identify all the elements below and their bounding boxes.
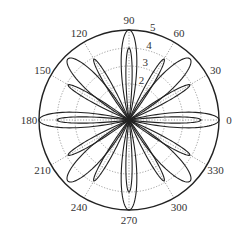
angle-label-90: 90	[124, 14, 136, 26]
petal-curve	[129, 58, 191, 120]
angle-label-60: 60	[174, 27, 186, 39]
angle-label-210: 210	[34, 164, 51, 176]
petal-curve	[67, 120, 129, 182]
radius-label-3: 3	[143, 56, 149, 68]
angle-label-30: 30	[210, 64, 222, 76]
petal-curve	[67, 58, 129, 120]
polar-curves	[39, 30, 219, 210]
polar-chart: 0 30 60 90 120 150 180 210 240 270 300 3…	[0, 0, 242, 235]
angle-label-330: 330	[207, 164, 224, 176]
angle-label-300: 300	[171, 201, 188, 213]
angle-label-270: 270	[121, 214, 138, 226]
angle-label-150: 150	[34, 64, 51, 76]
petal-curve	[129, 120, 191, 182]
angle-label-0: 0	[226, 114, 232, 126]
angle-label-120: 120	[71, 27, 88, 39]
radius-label-4: 4	[146, 39, 152, 51]
angle-label-240: 240	[71, 201, 88, 213]
angle-label-180: 180	[21, 114, 38, 126]
radius-label-2: 2	[139, 74, 145, 86]
radius-label-5: 5	[150, 21, 156, 33]
